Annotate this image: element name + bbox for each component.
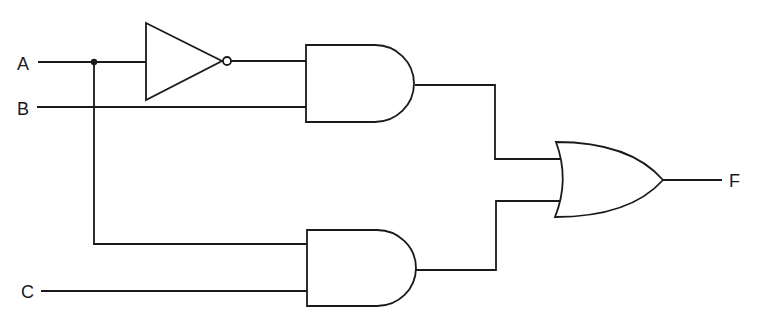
junction-dot [91, 59, 97, 65]
and-gate-1 [306, 45, 414, 122]
or-gate [555, 142, 663, 217]
wire-and2-out [416, 201, 560, 270]
logic-circuit-diagram: A B C F [0, 0, 764, 325]
output-label-f: F [729, 171, 740, 191]
inversion-bubble [223, 57, 231, 65]
input-label-a: A [17, 54, 29, 74]
input-label-b: B [17, 99, 29, 119]
and-gate-2 [307, 230, 416, 306]
input-label-c: C [21, 282, 34, 302]
wire-a-branch [94, 62, 307, 244]
not-gate [146, 23, 231, 100]
wire-and1-out [415, 85, 560, 159]
